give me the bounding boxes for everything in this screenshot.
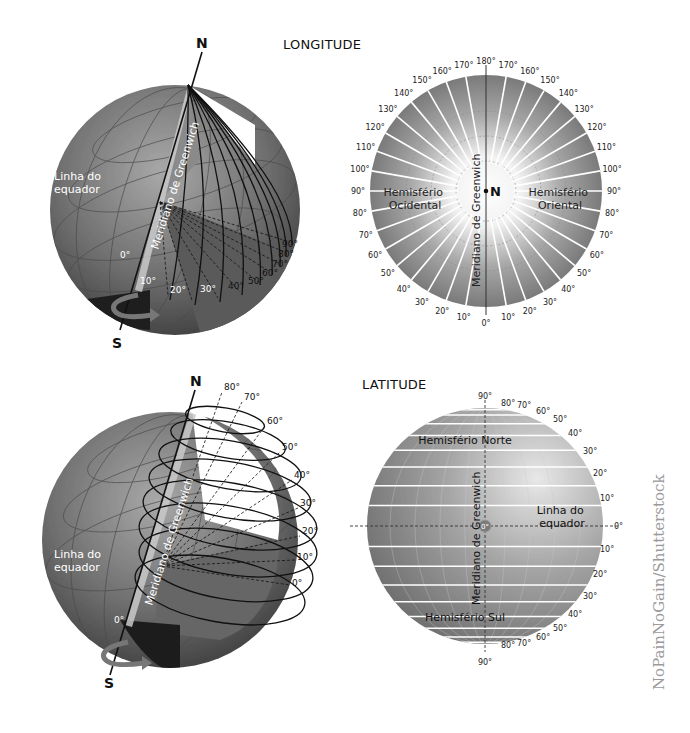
longitude-left-degree-label: 160° (433, 67, 452, 76)
svg-text:90°: 90° (478, 658, 492, 667)
svg-text:0°: 0° (292, 578, 302, 588)
polar-meridian-label: Meridiano de Greenwich (470, 154, 483, 287)
longitude-left-degree-label: 70° (359, 231, 373, 240)
longitude-left-degree-label: 120° (366, 123, 385, 132)
front-equator-label: Linha do equador (537, 504, 588, 530)
longitude-right-degree-label: 140° (559, 89, 578, 98)
svg-text:80°: 80° (501, 399, 515, 408)
north-pole-label: N (196, 35, 208, 51)
front-meridian-label: Meridiano de Greenwich (470, 472, 483, 605)
svg-text:70°: 70° (517, 401, 531, 410)
svg-text:50°: 50° (553, 624, 567, 633)
longitude-left-degree-label: 90° (351, 187, 365, 196)
longitude-right-degree-label: 90° (607, 187, 621, 196)
longitude-right-degree-label: 100° (602, 165, 621, 174)
longitude-left-degree-label: 100° (350, 165, 369, 174)
longitude-right-degree-label: 110° (597, 143, 616, 152)
svg-text:80°: 80° (501, 641, 515, 650)
longitude-right-degree-label: 130° (574, 105, 593, 114)
longitude-right-degree-label: 20° (523, 307, 537, 316)
svg-text:20°: 20° (593, 469, 607, 478)
svg-text:60°: 60° (262, 268, 278, 278)
longitude-right-degree-label: 10° (501, 313, 515, 322)
longitude-right-degree-label: 40° (561, 285, 575, 294)
svg-text:90°: 90° (282, 239, 298, 249)
longitude-left-degree-label: 20° (435, 307, 449, 316)
svg-text:0°: 0° (481, 319, 490, 328)
svg-text:30°: 30° (200, 284, 216, 294)
longitude-right-degree-label: 150° (540, 76, 559, 85)
svg-text:90°: 90° (478, 392, 492, 401)
south-pole-label: S (104, 675, 114, 690)
longitude-left-degree-label: 10° (457, 313, 471, 322)
longitude-left-degree-label: 150° (412, 76, 431, 85)
image-credit: NoPainNoGain/Shutterstock (650, 474, 668, 690)
svg-text:10°: 10° (140, 276, 156, 286)
svg-text:180°: 180° (476, 57, 495, 66)
longitude-right-degree-label: 60° (590, 251, 604, 260)
latitude-globe-diagram: N S Linha do equador Meridiano de Greenw… (40, 370, 340, 690)
longitude-globe-diagram: N S Linha do equador Meridiano de Greenw… (40, 30, 330, 350)
north-pole-label: N (190, 373, 202, 389)
svg-text:40°: 40° (294, 470, 310, 480)
svg-text:20°: 20° (593, 570, 607, 579)
zero-degree-label: 0° (114, 615, 124, 625)
zero-degree-label: 0° (120, 250, 130, 260)
longitude-left-degree-label: 30° (415, 298, 429, 307)
southern-hemisphere-label: Hemisfério Sul (425, 611, 505, 624)
longitude-left-degree-label: 110° (356, 143, 375, 152)
svg-text:60°: 60° (536, 633, 550, 642)
longitude-left-degree-label: 130° (378, 105, 397, 114)
longitude-right-degree-label: 70° (599, 231, 613, 240)
svg-text:60°: 60° (267, 416, 283, 426)
svg-text:50°: 50° (553, 415, 567, 424)
western-hemisphere-label: Hemisfério Ocidental (384, 186, 447, 212)
svg-text:60°: 60° (536, 407, 550, 416)
svg-text:10°: 10° (297, 552, 313, 562)
svg-text:80°: 80° (224, 382, 240, 392)
longitude-right-degree-label: 170° (499, 61, 518, 70)
longitude-left-degree-label: 60° (368, 251, 382, 260)
svg-text:70°: 70° (517, 639, 531, 648)
longitude-polar-diagram: N Meridiano de Greenwich Hemisfério Ocid… (340, 50, 630, 330)
svg-text:20°: 20° (170, 285, 186, 295)
svg-text:30°: 30° (300, 498, 316, 508)
svg-text:70°: 70° (272, 259, 288, 269)
longitude-right-degree-label: 80° (605, 209, 619, 218)
longitude-right-degree-label: 120° (587, 123, 606, 132)
svg-text:20°: 20° (302, 526, 318, 536)
svg-text:30°: 30° (583, 447, 597, 456)
longitude-left-degree-label: 140° (394, 89, 413, 98)
svg-text:0°: 0° (614, 522, 623, 531)
longitude-left-degree-label: 40° (397, 285, 411, 294)
longitude-left-degree-label: 50° (381, 269, 395, 278)
svg-text:30°: 30° (583, 592, 597, 601)
equator-label: Linha do equador (54, 170, 105, 196)
equator-label: Linha do equador (54, 548, 105, 574)
longitude-left-degree-label: 170° (454, 61, 473, 70)
northern-hemisphere-label: Hemisfério Norte (418, 434, 512, 447)
longitude-left-degree-label: 80° (353, 209, 367, 218)
svg-text:70°: 70° (244, 392, 260, 402)
south-pole-label: S (112, 335, 122, 350)
svg-text:40°: 40° (228, 281, 244, 291)
longitude-right-degree-label: 50° (577, 269, 591, 278)
svg-text:50°: 50° (282, 442, 298, 452)
longitude-right-degree-label: 30° (543, 298, 557, 307)
svg-text:40°: 40° (568, 429, 582, 438)
north-pole-center-label: N (490, 184, 501, 199)
svg-text:10°: 10° (600, 545, 614, 554)
svg-text:40°: 40° (568, 610, 582, 619)
longitude-right-degree-label: 160° (520, 67, 539, 76)
svg-text:80°: 80° (278, 249, 294, 259)
svg-text:10°: 10° (600, 494, 614, 503)
latitude-front-globe-diagram: 0° Hemisfério Norte Hemisfério Sul Merid… (350, 390, 640, 670)
